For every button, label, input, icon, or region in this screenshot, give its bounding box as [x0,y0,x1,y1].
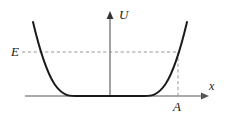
u-axis-arrowhead [107,11,114,19]
turning-point-label: A [173,100,181,113]
energy-level-label: E [11,45,19,58]
u-axis-label: U [119,8,128,21]
x-axis-label: x [209,80,214,92]
u-axis [107,11,114,96]
x-axis-arrowhead [201,92,209,99]
figure-canvas [0,0,226,121]
potential-energy-figure: U x E A [0,0,226,121]
